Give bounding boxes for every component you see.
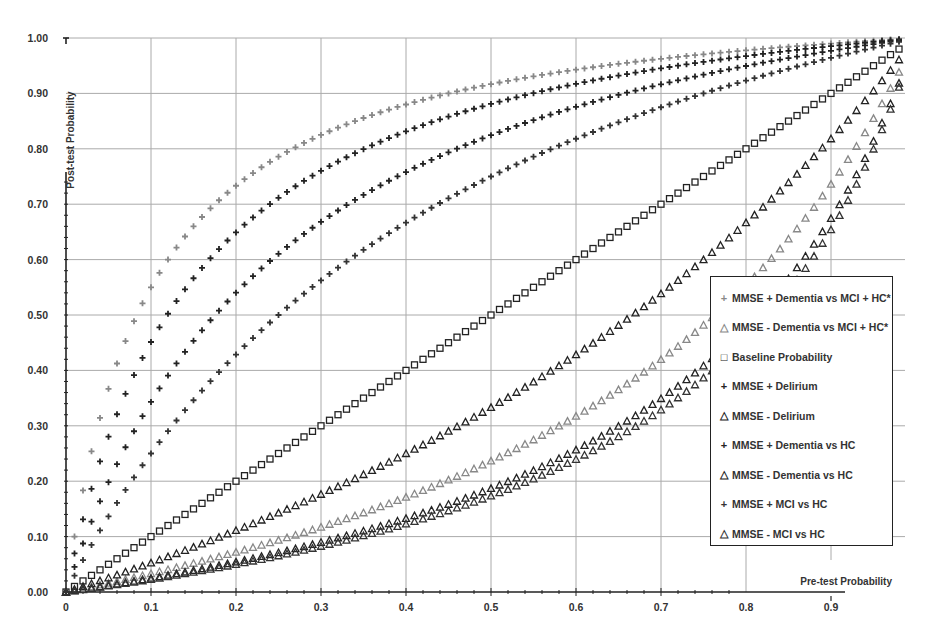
legend-label: MMSE - MCI vs HC	[732, 528, 825, 540]
plus-marker-icon: +	[719, 498, 729, 510]
legend-label: MMSE + MCI vs HC	[732, 498, 827, 510]
legend-item: +MMSE + Delirium	[719, 372, 892, 402]
legend-label: MMSE + Dementia vs MCI + HC*	[732, 292, 891, 304]
svg-text:0.5: 0.5	[484, 601, 499, 613]
svg-text:0.8: 0.8	[739, 601, 754, 613]
legend-label: MMSE - Dementia vs HC	[732, 469, 853, 481]
triangle-marker-icon: △	[719, 468, 729, 481]
legend-label: MMSE + Dementia vs HC	[732, 439, 855, 451]
legend-label: MMSE - Dementia vs MCI + HC*	[732, 321, 888, 333]
triangle-marker-icon: △	[719, 409, 729, 422]
legend-item: +MMSE + MCI vs HC	[719, 490, 892, 520]
plus-marker-icon: +	[719, 380, 729, 392]
svg-text:0.60: 0.60	[28, 254, 49, 266]
svg-text:1.00: 1.00	[28, 32, 49, 44]
legend-item: △MMSE - Dementia vs HC	[719, 460, 892, 490]
svg-text:0.80: 0.80	[28, 143, 49, 155]
triangle-marker-icon: △	[719, 321, 729, 334]
triangle-marker-icon: △	[719, 527, 729, 540]
svg-text:0.9: 0.9	[824, 601, 839, 613]
svg-text:0.90: 0.90	[28, 87, 49, 99]
svg-text:0.1: 0.1	[144, 601, 159, 613]
legend-item: □Baseline Probability	[719, 342, 892, 372]
svg-text:0.40: 0.40	[28, 364, 49, 376]
legend-item: △MMSE - Delirium	[719, 401, 892, 431]
plus-marker-icon: +	[719, 292, 729, 304]
svg-text:0.50: 0.50	[28, 309, 49, 321]
legend-item: △MMSE - Dementia vs MCI + HC*	[719, 313, 892, 343]
svg-text:0.20: 0.20	[28, 475, 49, 487]
svg-text:0.6: 0.6	[569, 601, 584, 613]
y-axis-label: Post-test Probability	[65, 91, 76, 189]
square-marker-icon: □	[719, 351, 729, 363]
x-axis-label: Pre-test Probability	[800, 576, 892, 587]
chart-legend: +MMSE + Dementia vs MCI + HC* △MMSE - De…	[710, 276, 893, 546]
svg-text:0.2: 0.2	[229, 601, 244, 613]
legend-item: △MMSE - MCI vs HC	[719, 519, 892, 549]
legend-item: +MMSE + Dementia vs MCI + HC*	[719, 283, 892, 313]
svg-text:0.30: 0.30	[28, 420, 49, 432]
legend-label: Baseline Probability	[732, 351, 832, 363]
legend-label: MMSE - Delirium	[732, 410, 815, 422]
svg-text:0: 0	[63, 601, 69, 613]
legend-item: +MMSE + Dementia vs HC	[719, 431, 892, 461]
svg-text:0.00: 0.00	[28, 586, 49, 598]
svg-text:0.3: 0.3	[314, 601, 329, 613]
svg-text:0.4: 0.4	[399, 601, 414, 613]
svg-text:0.70: 0.70	[28, 198, 49, 210]
plus-marker-icon: +	[719, 439, 729, 451]
svg-text:0.7: 0.7	[654, 601, 669, 613]
legend-label: MMSE + Delirium	[732, 380, 817, 392]
svg-text:0.10: 0.10	[28, 531, 49, 543]
